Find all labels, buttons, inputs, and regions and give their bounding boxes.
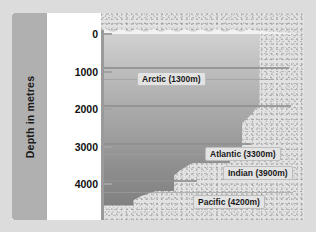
grid-line-4200 [101,192,293,193]
grid-line-2000 [101,105,291,107]
tick-label-4000: 4000 [75,178,98,190]
tick-mark-4000 [104,183,112,185]
grid-line-3000 [101,143,251,145]
water-surface-waves [101,28,304,34]
tick-mark-1000 [104,71,112,73]
tick-mark-0 [104,33,112,35]
basin-label-atlantic: Atlantic (3300m) [205,147,281,161]
grid-line-4000 [101,180,197,182]
plot-area: Arctic (1300m) Atlantic (3300m) Indian (… [101,13,304,220]
tick-mark-2000 [104,108,112,110]
figure-root: Depth in metres 0 1000 2000 3000 4000 [0,0,316,232]
y-axis-spine [101,30,104,220]
tick-label-0: 0 [92,28,98,40]
grid-line-1000 [101,67,289,69]
tick-label-1000: 1000 [75,66,98,78]
tick-mark-3000 [104,146,112,148]
y-axis-title-band: Depth in metres [12,13,47,220]
basin-label-arctic: Arctic (1300m) [137,72,206,86]
basin-label-indian: Indian (3900m) [223,166,293,180]
basin-label-pacific: Pacific (4200m) [193,195,265,209]
chart-frame: Depth in metres 0 1000 2000 3000 4000 [12,13,304,220]
tick-label-2000: 2000 [75,103,98,115]
y-axis-tick-labels: 0 1000 2000 3000 4000 [47,13,101,220]
y-axis-title: Depth in metres [24,75,36,157]
tick-label-3000: 3000 [75,141,98,153]
